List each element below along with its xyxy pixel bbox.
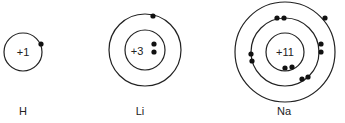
electron <box>318 49 323 54</box>
nucleus-charge: +3 <box>131 45 144 57</box>
nucleus-charge: +1 <box>17 46 30 58</box>
atom-sodium: +11 Na <box>235 2 335 117</box>
electron <box>282 65 287 70</box>
atom-label: Li <box>136 105 145 117</box>
atom-lithium: +3 Li <box>109 13 181 117</box>
electron <box>151 41 156 46</box>
electron <box>150 13 155 18</box>
electron <box>274 15 279 20</box>
electron <box>305 74 310 79</box>
nucleus-charge: +11 <box>276 46 294 58</box>
atom-label: Na <box>277 105 292 117</box>
electron <box>151 49 156 54</box>
electron <box>322 15 327 20</box>
atom-label: H <box>19 105 27 117</box>
bohr-diagrams: +1 H +3 Li +11 Na <box>0 0 345 123</box>
electron <box>38 41 43 46</box>
electron <box>299 76 304 81</box>
electron <box>248 51 253 56</box>
electron <box>249 58 254 63</box>
electron <box>289 64 294 69</box>
electron <box>318 41 323 46</box>
shell-2 <box>109 14 181 86</box>
atom-hydrogen: +1 H <box>4 33 44 117</box>
electron <box>281 15 286 20</box>
